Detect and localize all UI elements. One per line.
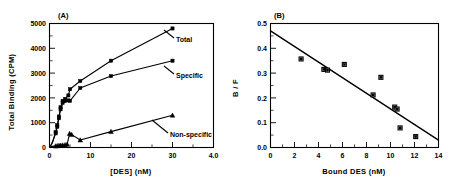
panel-b-ytick-5: 0.5: [257, 20, 267, 27]
panel-b-y-tick-labels: 0.0 0.1 0.2 0.3 0.4 0.5: [257, 20, 267, 151]
scatter-point: [414, 135, 418, 139]
series-non-specific: [50, 113, 174, 148]
panel-a-x-ticks: [50, 142, 214, 148]
panel-a-x-tick-labels: 0 10 20 30 4.0: [48, 152, 219, 159]
panel-b-svg: (B) B / F 0.0 0.1 0.2 0.3: [228, 0, 455, 194]
scatter-point: [379, 75, 383, 79]
regression-line: [271, 31, 439, 140]
data-marker: [59, 108, 62, 111]
data-marker: [67, 94, 70, 97]
data-marker: [171, 59, 174, 62]
data-marker: [68, 88, 71, 91]
panel-b-ytick-2: 0.2: [257, 95, 267, 102]
data-marker: [170, 113, 175, 117]
data-marker: [109, 74, 112, 77]
panel-b-xtick-1: 2: [293, 152, 297, 159]
panel-b-xtick-2: 4: [317, 152, 321, 159]
series-leader-line: [164, 66, 174, 74]
panel-a-label: (A): [58, 11, 69, 20]
panel-b-y-axis-title: B / F: [231, 79, 240, 97]
series-label-specific: Specific: [176, 72, 203, 80]
panel-a-ytick-0: 0: [42, 144, 46, 151]
panel-b-xtick-6: 12: [411, 152, 419, 159]
panel-b-y-ticks: [271, 24, 277, 148]
panel-b-x-ticks: [271, 142, 439, 148]
panel-b-x-tick-labels: 02468101214: [269, 152, 443, 159]
series-total: [50, 27, 174, 146]
panel-a-ytick-3: 3000: [30, 70, 46, 77]
data-marker: [57, 117, 60, 120]
panel-a-xtick-3: 30: [169, 152, 177, 159]
panel-b-ytick-4: 0.4: [257, 45, 267, 52]
panel-b-label: (B): [274, 11, 285, 20]
data-marker: [79, 86, 82, 89]
scatter-point: [342, 62, 346, 66]
panel-a-xtick-4: 4.0: [209, 152, 219, 159]
data-marker: [56, 125, 59, 128]
scatter-point: [395, 107, 399, 111]
panel-a-svg: (A) Total Binding (CPM) 0 1000 2000: [0, 0, 227, 194]
scatter-point: [398, 126, 402, 130]
panel-a-ytick-2: 2000: [30, 95, 46, 102]
panel-b-ytick-1: 0.1: [257, 119, 267, 126]
panel-b-ytick-0: 0.0: [257, 144, 267, 151]
panel-a-series-group: [50, 27, 174, 148]
panel-a-saturation-binding: (A) Total Binding (CPM) 0 1000 2000: [0, 0, 227, 194]
panel-b-ytick-3: 0.3: [257, 70, 267, 77]
series-leader-line: [152, 120, 168, 133]
panel-a-ytick-1: 1000: [30, 119, 46, 126]
series-label-total: Total: [176, 36, 192, 43]
data-marker: [54, 132, 57, 135]
panel-a-xtick-1: 10: [87, 152, 95, 159]
panel-a-ytick-5: 5000: [30, 20, 46, 27]
data-marker: [68, 99, 71, 102]
panel-a-ytick-4: 4000: [30, 45, 46, 52]
panel-a-y-ticks: [50, 24, 56, 148]
panel-b-x-axis-title: Bound DES (nM): [322, 167, 386, 176]
panel-b-xtick-3: 6: [341, 152, 345, 159]
panel-a-xtick-0: 0: [48, 152, 52, 159]
series-label-non-specific: Non-specific: [170, 131, 212, 139]
panel-b-xtick-5: 10: [387, 152, 395, 159]
scatter-point: [371, 93, 375, 97]
series-leader-line: [164, 30, 174, 38]
panel-b-xtick-7: 14: [435, 152, 443, 159]
data-marker: [171, 27, 174, 30]
scatter-point: [326, 68, 330, 72]
figure-container: (A) Total Binding (CPM) 0 1000 2000: [0, 0, 455, 194]
panel-a-y-axis-title: Total Binding (CPM): [7, 53, 16, 130]
panel-a-y-tick-labels: 0 1000 2000 3000 4000 5000: [30, 20, 46, 151]
data-marker: [109, 59, 112, 62]
panel-b-xtick-4: 8: [365, 152, 369, 159]
data-marker: [79, 79, 82, 82]
panel-b-scatchard-plot: (B) B / F 0.0 0.1 0.2 0.3: [228, 0, 455, 194]
scatter-point: [299, 57, 303, 61]
panel-a-xtick-2: 20: [128, 152, 136, 159]
panel-b-xtick-0: 0: [269, 152, 273, 159]
panel-b-data-points: [299, 57, 418, 139]
panel-b-regression-line: [271, 31, 439, 140]
data-marker: [63, 100, 66, 103]
panel-a-x-axis-title: [DES] (nM): [110, 167, 152, 176]
